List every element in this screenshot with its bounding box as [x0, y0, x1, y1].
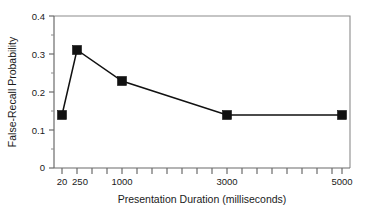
- data-point-3000: [223, 111, 232, 120]
- x-tick-label-250: 250: [72, 176, 88, 187]
- y-axis-major-ticks: [49, 16, 54, 168]
- plot-area-background: [54, 16, 350, 168]
- x-tick-label-5000: 5000: [331, 176, 352, 187]
- x-tick-label-1000: 1000: [111, 176, 132, 187]
- y-tick-label-4: 0.4: [32, 11, 45, 22]
- y-tick-label-2: 0.2: [32, 87, 45, 98]
- chart-figure: 0 0.1 0.2 0.3 0.4: [0, 0, 367, 211]
- x-tick-label-20: 20: [57, 176, 68, 187]
- x-axis-ticks: [62, 168, 342, 174]
- y-tick-label-0: 0: [40, 162, 45, 173]
- data-point-5000: [338, 111, 347, 120]
- data-point-20: [58, 111, 67, 120]
- x-tick-label-3000: 3000: [216, 176, 237, 187]
- line-chart: 0 0.1 0.2 0.3 0.4: [0, 0, 367, 211]
- y-tick-label-1: 0.1: [32, 125, 45, 136]
- data-point-250: [73, 46, 82, 55]
- data-point-1000: [118, 77, 127, 86]
- y-axis-title: False-Recall Probability: [6, 36, 18, 147]
- y-tick-label-3: 0.3: [32, 49, 45, 60]
- x-axis-title: Presentation Duration (milliseconds): [118, 193, 287, 205]
